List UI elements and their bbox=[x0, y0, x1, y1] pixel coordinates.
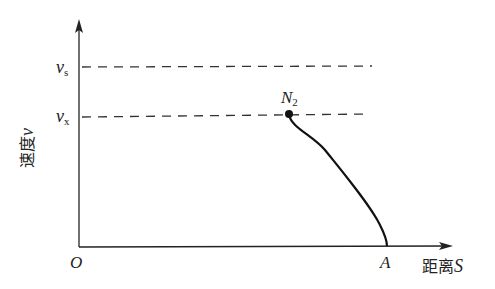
x-axis bbox=[79, 246, 446, 247]
origin-label: O bbox=[70, 253, 82, 273]
x-axis-label: 距离S bbox=[422, 253, 463, 277]
vx-label: vx bbox=[56, 106, 70, 127]
speed-curve bbox=[289, 115, 387, 246]
y-axis-label: 速度v bbox=[14, 128, 38, 168]
point-n2-label: N2 bbox=[281, 88, 298, 108]
point-a-label: A bbox=[380, 253, 390, 273]
vs-label: vs bbox=[56, 57, 68, 78]
vs-dashed-line bbox=[82, 66, 372, 67]
diagram-canvas bbox=[0, 0, 495, 289]
vx-dashed-line bbox=[82, 114, 370, 117]
point-n2-dot bbox=[285, 110, 293, 118]
